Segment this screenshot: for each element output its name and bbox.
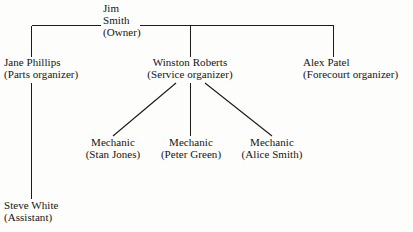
node-service-role: (Service organizer) xyxy=(147,69,232,81)
node-service-organizer[interactable]: Winston Roberts (Service organizer) xyxy=(147,57,232,81)
node-owner[interactable]: Jim Smith (Owner) xyxy=(103,3,141,39)
node-mechanic-stan-jones[interactable]: Mechanic (Stan Jones) xyxy=(86,137,141,161)
node-mechanic-1-role: (Stan Jones) xyxy=(86,149,141,161)
node-forecourt-organizer[interactable]: Alex Patel (Forecourt organizer) xyxy=(303,57,398,81)
node-forecourt-role: (Forecourt organizer) xyxy=(303,69,398,81)
node-owner-name-line-2: Smith xyxy=(103,15,141,27)
edge-service-to-mechanic-1 xyxy=(113,83,176,136)
node-mechanic-peter-green[interactable]: Mechanic (Peter Green) xyxy=(161,137,221,161)
node-mechanic-2-role: (Peter Green) xyxy=(161,149,221,161)
node-mechanic-alice-smith[interactable]: Mechanic (Alice Smith) xyxy=(242,137,303,161)
node-mechanic-3-role: (Alice Smith) xyxy=(242,149,303,161)
node-assistant[interactable]: Steve White (Assistant) xyxy=(4,200,58,224)
org-chart: Jim Smith (Owner) Jane Phillips (Parts o… xyxy=(0,0,413,232)
node-owner-role: (Owner) xyxy=(103,27,141,39)
node-parts-organizer[interactable]: Jane Phillips (Parts organizer) xyxy=(4,57,78,81)
edge-service-to-mechanic-3 xyxy=(205,83,272,136)
node-assistant-role: (Assistant) xyxy=(4,212,58,224)
node-parts-role: (Parts organizer) xyxy=(4,69,78,81)
connector-lines xyxy=(0,0,413,232)
